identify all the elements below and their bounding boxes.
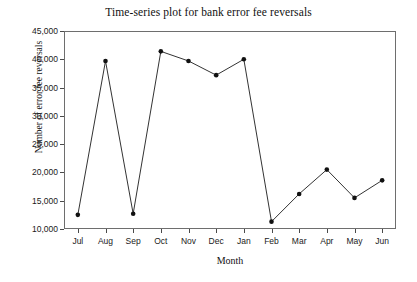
x-tick-label: Feb <box>264 236 279 246</box>
plot-area <box>64 31 396 229</box>
y-tick-mark <box>60 116 64 117</box>
x-tick-mark <box>382 229 383 233</box>
y-tick-label: 20,000 <box>0 167 58 177</box>
x-tick-mark <box>106 229 107 233</box>
x-tick-mark <box>133 229 134 233</box>
x-tick-label: Oct <box>154 236 167 246</box>
y-tick-label: 30,000 <box>0 111 58 121</box>
y-tick-label: 40,000 <box>0 54 58 64</box>
x-tick-mark <box>216 229 217 233</box>
x-tick-mark <box>78 229 79 233</box>
x-tick-mark <box>244 229 245 233</box>
x-axis-label: Month <box>64 255 396 266</box>
x-tick-mark <box>189 229 190 233</box>
x-tick-label: Jul <box>72 236 83 246</box>
y-tick-mark <box>60 172 64 173</box>
x-tick-label: Aug <box>98 236 113 246</box>
x-tick-label: Nov <box>181 236 196 246</box>
x-tick-label: Dec <box>209 236 224 246</box>
x-tick-label: Apr <box>320 236 333 246</box>
y-tick-label: 15,000 <box>0 196 58 206</box>
y-tick-mark <box>60 201 64 202</box>
y-axis-label: Number of error fee reversals <box>34 12 44 182</box>
chart-title: Time-series plot for bank error fee reve… <box>0 6 417 18</box>
x-tick-mark <box>161 229 162 233</box>
x-tick-mark <box>299 229 300 233</box>
x-tick-label: Jan <box>237 236 251 246</box>
y-tick-mark <box>60 31 64 32</box>
x-tick-mark <box>355 229 356 233</box>
y-tick-mark <box>60 229 64 230</box>
x-tick-mark <box>272 229 273 233</box>
y-tick-label: 35,000 <box>0 83 58 93</box>
y-tick-label: 10,000 <box>0 224 58 234</box>
x-tick-label: Mar <box>292 236 307 246</box>
x-tick-label: Sep <box>126 236 141 246</box>
y-tick-label: 25,000 <box>0 139 58 149</box>
chart-figure: Time-series plot for bank error fee reve… <box>0 0 417 282</box>
y-tick-label: 45,000 <box>0 26 58 36</box>
x-tick-mark <box>327 229 328 233</box>
x-tick-label: May <box>346 236 362 246</box>
y-tick-mark <box>60 144 64 145</box>
y-tick-mark <box>60 59 64 60</box>
y-tick-mark <box>60 88 64 89</box>
x-tick-label: Jun <box>375 236 389 246</box>
